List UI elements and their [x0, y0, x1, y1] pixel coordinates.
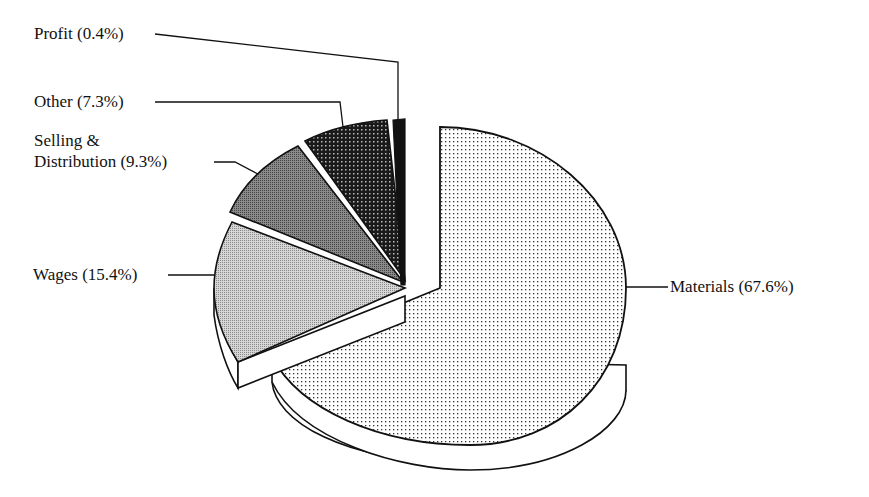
label-profit: Profit (0.4%)	[34, 24, 124, 43]
label-selling-line2: Distribution (9.3%)	[34, 152, 167, 171]
leader-other	[155, 102, 343, 127]
label-materials: Materials (67.6%)	[670, 277, 794, 296]
label-wages: Wages (15.4%)	[33, 265, 137, 284]
leader-profit	[155, 34, 398, 120]
label-other: Other (7.3%)	[34, 92, 124, 111]
pie-chart	[0, 0, 869, 497]
leader-selling	[214, 162, 258, 174]
label-selling-line1: Selling &	[34, 131, 100, 150]
